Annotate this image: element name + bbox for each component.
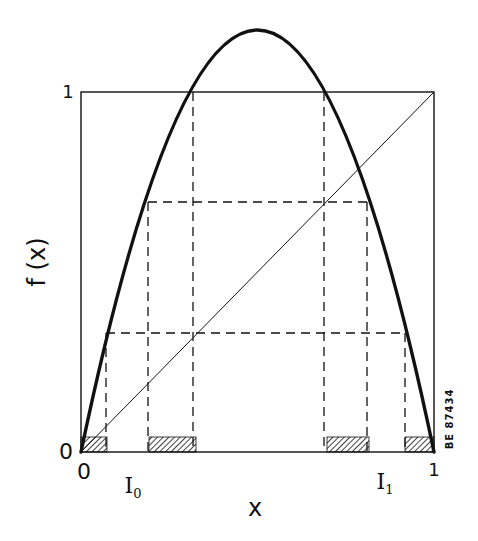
x-axis-label: x (248, 496, 262, 520)
hatched-interval-3 (327, 437, 369, 452)
x-tick-one: 1 (428, 461, 439, 479)
y-axis-label: f (x) (25, 237, 49, 286)
figure-code-label: BE 87434 (445, 389, 455, 450)
y-tick-zero: 0 (59, 441, 73, 463)
y-tick-one: 1 (62, 83, 73, 101)
dashed-construction-lines (106, 92, 405, 452)
map-curve (81, 30, 434, 452)
hatched-interval-2 (149, 437, 196, 452)
hatched-intervals (81, 437, 434, 452)
interval-i0-label: I0 (125, 475, 142, 500)
identity-diagonal (81, 92, 434, 452)
interval-i1-label: I1 (377, 471, 394, 496)
x-tick-zero: 0 (77, 461, 91, 483)
